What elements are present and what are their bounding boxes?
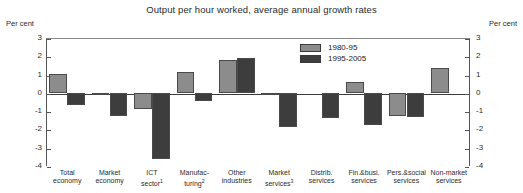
chart-figure: Output per hour worked, average annual g… bbox=[0, 0, 523, 193]
y-tick-label-left--2: -2 bbox=[18, 124, 42, 133]
y-tick-2 bbox=[465, 57, 469, 58]
bar-1-5 bbox=[279, 93, 297, 127]
y-tick-label-right--2: -2 bbox=[476, 124, 500, 133]
category-label-4: Otherindustries bbox=[216, 169, 258, 186]
bar-1-2 bbox=[152, 93, 170, 159]
y-tick-label-left--1: -1 bbox=[18, 106, 42, 115]
category-label-6: Distrib.services bbox=[300, 169, 342, 186]
y-tick--4 bbox=[47, 167, 51, 168]
category-label-7: Fin.&busi.services bbox=[343, 169, 385, 186]
category-label-0: Totaleconomy bbox=[46, 169, 88, 186]
bar-0-5 bbox=[261, 93, 279, 95]
y-tick-label-right-2: 2 bbox=[476, 51, 500, 60]
y-tick-label-left-0: 0 bbox=[18, 88, 42, 97]
category-label-9: Non-marketservices bbox=[428, 169, 470, 186]
y-tick--2 bbox=[47, 130, 51, 131]
y-axis-unit-right: Per cent bbox=[489, 19, 517, 28]
category-label-3: Manufac-turing2 bbox=[173, 169, 215, 189]
bar-0-1 bbox=[92, 93, 110, 95]
chart-title: Output per hour worked, average annual g… bbox=[0, 4, 523, 15]
category-label-5: Marketservices3 bbox=[258, 169, 300, 189]
y-tick-2 bbox=[47, 57, 51, 58]
bar-0-4 bbox=[219, 60, 237, 93]
y-tick-label-right--4: -4 bbox=[476, 161, 500, 170]
y-tick-label-left-3: 3 bbox=[18, 33, 42, 42]
category-label-8: Pers.&socialservices bbox=[385, 169, 427, 186]
bar-1-0 bbox=[67, 93, 85, 105]
y-tick-label-right-1: 1 bbox=[476, 70, 500, 79]
bar-0-8 bbox=[389, 93, 407, 116]
category-label-1: Marketeconomy bbox=[88, 169, 130, 186]
bar-0-0 bbox=[49, 74, 67, 93]
category-label-2: ICTsector1 bbox=[131, 169, 173, 189]
y-tick--2 bbox=[465, 130, 469, 131]
bar-1-3 bbox=[195, 93, 213, 101]
y-tick-0 bbox=[465, 94, 469, 95]
bar-1-4 bbox=[237, 58, 255, 93]
y-tick-3 bbox=[465, 39, 469, 40]
bar-1-7 bbox=[364, 93, 382, 125]
y-tick--3 bbox=[465, 149, 469, 150]
bar-0-7 bbox=[346, 82, 364, 93]
y-tick-label-right-0: 0 bbox=[476, 88, 500, 97]
y-tick--1 bbox=[465, 112, 469, 113]
bar-0-3 bbox=[177, 72, 195, 93]
y-tick--1 bbox=[47, 112, 51, 113]
bar-0-9 bbox=[431, 68, 449, 93]
y-tick-label-right-3: 3 bbox=[476, 33, 500, 42]
bar-0-2 bbox=[134, 93, 152, 109]
y-tick-1 bbox=[465, 76, 469, 77]
y-tick-label-left--4: -4 bbox=[18, 161, 42, 170]
y-tick-label-left--3: -3 bbox=[18, 143, 42, 152]
y-tick-label-right--3: -3 bbox=[476, 143, 500, 152]
y-tick-label-left-1: 1 bbox=[18, 70, 42, 79]
y-tick--3 bbox=[47, 149, 51, 150]
bar-1-1 bbox=[110, 93, 128, 116]
y-tick-3 bbox=[47, 39, 51, 40]
bar-1-6 bbox=[322, 93, 340, 118]
y-tick--4 bbox=[465, 167, 469, 168]
y-tick-label-left-2: 2 bbox=[18, 51, 42, 60]
y-tick-label-right--1: -1 bbox=[476, 106, 500, 115]
y-tick-0 bbox=[47, 94, 51, 95]
bar-1-8 bbox=[407, 93, 425, 117]
y-axis-unit-left: Per cent bbox=[6, 19, 34, 28]
